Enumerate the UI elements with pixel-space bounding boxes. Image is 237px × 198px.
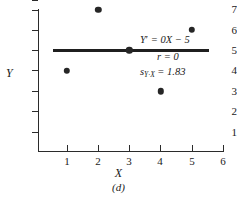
y-tick-3 xyxy=(32,91,38,92)
y-axis-label: Y xyxy=(6,66,13,81)
data-point xyxy=(126,47,132,53)
y-tick-2 xyxy=(32,111,38,112)
x-tick-2 xyxy=(98,145,99,151)
x-tick-1 xyxy=(67,145,68,151)
y-tick-label-7: 7 xyxy=(211,4,237,15)
standard-error-annotation: sY·X = 1.83 xyxy=(140,66,185,81)
y-tick-4b xyxy=(32,70,38,71)
correlation-annotation: r = 0 xyxy=(157,51,179,63)
data-point xyxy=(95,6,101,12)
x-tick-5 xyxy=(192,145,193,151)
figure-caption: (d) xyxy=(0,181,237,193)
y-tick-label-6: 6 xyxy=(211,25,237,36)
stderr-value: = 1.83 xyxy=(155,66,186,77)
x-tick-3 xyxy=(129,145,130,151)
equation-rhs: = 0X − 5 xyxy=(148,34,190,45)
y-tick-label-5: 5 xyxy=(211,45,237,56)
y-tick-1 xyxy=(32,132,38,133)
scatter-plot-figure: 7 6 5 4 3 2 1 1 2 3 4 5 6 Y′ = 0X − 5 r … xyxy=(0,0,237,198)
y-tick-5 xyxy=(32,50,38,51)
y-axis-line xyxy=(38,9,39,152)
x-tick-4 xyxy=(160,145,161,151)
y-tick-4 xyxy=(32,0,38,1)
y-tick-6 xyxy=(32,30,38,31)
y-tick-label-4: 4 xyxy=(211,65,237,76)
y-tick-label-1: 1 xyxy=(211,127,237,138)
data-point xyxy=(157,88,163,94)
y-tick-label-3: 3 xyxy=(211,86,237,97)
x-axis-label: X xyxy=(0,166,237,181)
y-tick-7 xyxy=(32,10,38,11)
y-tick-label-2: 2 xyxy=(211,106,237,117)
data-point xyxy=(64,68,70,74)
data-point xyxy=(189,27,195,33)
regression-equation-annotation: Y′ = 0X − 5 xyxy=(140,34,190,46)
stderr-subscript: Y·X xyxy=(144,70,155,79)
x-axis-line xyxy=(38,151,224,152)
x-tick-6 xyxy=(223,145,224,151)
